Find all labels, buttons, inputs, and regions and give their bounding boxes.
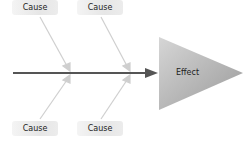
bone-arrow-icon: [63, 63, 70, 71]
effect-label: Effect: [176, 68, 199, 77]
bone-arrow-icon: [123, 75, 130, 83]
cause-box-top-right: Cause: [77, 0, 123, 15]
effect-triangle: [159, 37, 243, 110]
cause-box-bottom-left: Cause: [12, 121, 58, 136]
cause-bones: [40, 17, 130, 119]
bone-arrow-icon: [63, 75, 70, 83]
cause-box-top-left: Cause: [12, 0, 58, 15]
spine-arrowhead-icon: [145, 68, 158, 78]
bone-top-left: [40, 17, 67, 66]
bone-arrow-icon: [123, 63, 130, 71]
bone-top-right: [101, 17, 127, 66]
bone-bottom-right: [101, 80, 127, 119]
cause-box-bottom-right: Cause: [77, 121, 123, 136]
bone-bottom-left: [40, 80, 67, 119]
